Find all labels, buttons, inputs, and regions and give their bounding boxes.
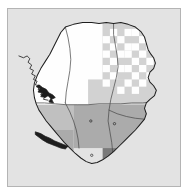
stipple-cell bbox=[117, 36, 124, 43]
stipple-cell bbox=[117, 87, 124, 94]
stipple-cell bbox=[124, 29, 131, 36]
stipple-cell bbox=[103, 36, 110, 43]
stipple-cell bbox=[132, 87, 139, 94]
stipple-cell bbox=[110, 58, 117, 65]
stipple-cell bbox=[132, 72, 139, 79]
stipple-cell bbox=[103, 79, 110, 86]
stipple-cell bbox=[146, 58, 153, 65]
stipple-cell bbox=[124, 43, 131, 50]
stipple-cell bbox=[132, 29, 139, 36]
stipple-cell bbox=[124, 79, 131, 86]
stipple-cell bbox=[139, 65, 146, 72]
stipple-cell bbox=[139, 79, 146, 86]
stipple-cell bbox=[124, 65, 131, 72]
stipple-cell bbox=[124, 51, 131, 58]
map-frame bbox=[7, 8, 181, 187]
stipple-cell bbox=[117, 51, 124, 58]
stipple-cell bbox=[103, 51, 110, 58]
stipple-cell bbox=[139, 51, 146, 58]
stipple-cell bbox=[132, 43, 139, 50]
stipple-cell bbox=[103, 65, 110, 72]
stipple-cell bbox=[132, 58, 139, 65]
map-figure bbox=[0, 0, 189, 196]
sierra-leone-map bbox=[8, 9, 180, 186]
